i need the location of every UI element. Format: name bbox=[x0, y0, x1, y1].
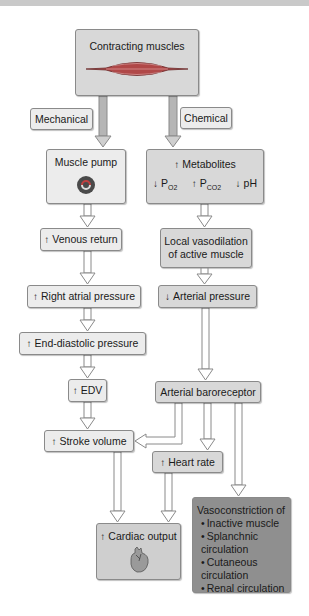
right-atrial-pressure-box: Right atrial pressure bbox=[27, 285, 141, 308]
right-atrial-pressure-label: Right atrial pressure bbox=[33, 290, 135, 303]
edv-box: EDV bbox=[68, 379, 107, 402]
list-item: Inactive muscle bbox=[201, 517, 286, 530]
cardiac-output-label: Cardiac output bbox=[100, 530, 176, 543]
list-item: Cutaneous circulation bbox=[201, 556, 286, 582]
stroke-volume-label: Stroke volume bbox=[51, 435, 126, 448]
stroke-volume-box: Stroke volume bbox=[44, 430, 134, 452]
vasoconstriction-box: Vasoconstriction of Inactive muscle Spla… bbox=[192, 497, 291, 593]
list-item: Splanchnic circulation bbox=[201, 530, 286, 556]
heart-icon bbox=[127, 545, 151, 575]
vasoconstriction-title: Vasoconstriction of bbox=[197, 504, 285, 517]
heart-rate-label: Heart rate bbox=[160, 456, 215, 469]
cardiac-output-box: Cardiac output bbox=[96, 523, 181, 580]
arterial-baroreceptor-box: Arterial baroreceptor bbox=[155, 381, 261, 403]
arterial-baroreceptor-label: Arterial baroreceptor bbox=[160, 386, 256, 399]
arterial-pressure-label: Arterial pressure bbox=[165, 290, 250, 303]
list-item: Renal circulation bbox=[201, 582, 286, 595]
vasoconstriction-list: Inactive muscle Splanchnic circulation C… bbox=[197, 517, 286, 595]
end-diastolic-pressure-box: End-diastolic pressure bbox=[19, 332, 146, 355]
arterial-pressure-box: Arterial pressure bbox=[158, 285, 257, 308]
heart-rate-box: Heart rate bbox=[152, 451, 223, 473]
end-diastolic-pressure-label: End-diastolic pressure bbox=[27, 337, 139, 350]
edv-label: EDV bbox=[73, 384, 103, 397]
